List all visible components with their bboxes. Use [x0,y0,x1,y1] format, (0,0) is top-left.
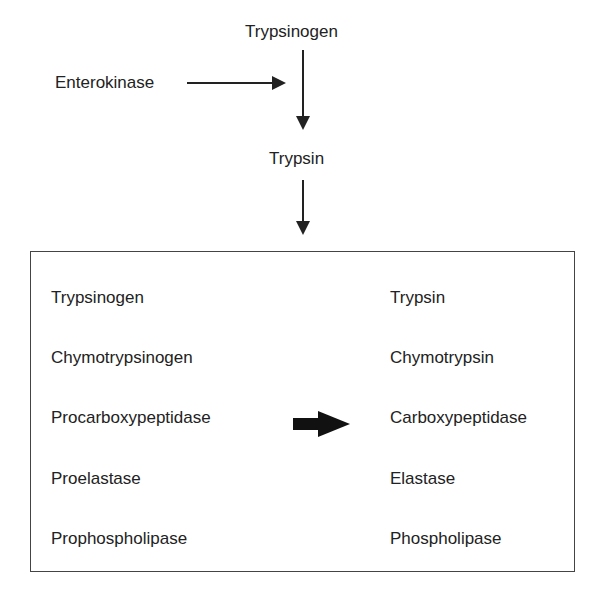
precursor-item: Proelastase [51,469,141,489]
precursor-item: Trypsinogen [51,288,144,308]
activator-enterokinase: Enterokinase [55,73,154,93]
middle-node-trypsin: Trypsin [269,149,324,169]
precursor-item: Chymotrypsinogen [51,348,193,368]
enzyme-item: Trypsin [390,288,445,308]
enzyme-item: Phospholipase [390,529,502,549]
enzyme-item: Chymotrypsin [390,348,494,368]
precursor-item: Prophospholipase [51,529,187,549]
top-node-trypsinogen: Trypsinogen [245,22,338,42]
enzyme-item: Elastase [390,469,455,489]
enzyme-item: Carboxypeptidase [390,408,527,428]
precursor-item: Procarboxypeptidase [51,408,211,428]
